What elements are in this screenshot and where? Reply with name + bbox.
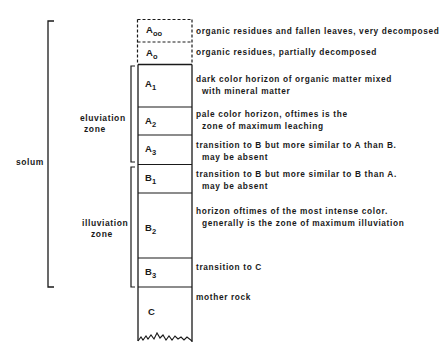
- soil-column-outline: [138, 65, 192, 343]
- bedrock-jagged-edge: [138, 333, 192, 341]
- horizon-Ao-label: Ao: [146, 47, 157, 61]
- horizon-B1-description: transition to B but more similar to B th…: [196, 168, 397, 192]
- horizon-A2-label: A2: [145, 115, 156, 129]
- horizon-A3-label: A3: [145, 143, 156, 157]
- horizon-C-description: mother rock: [196, 291, 251, 303]
- illuviation-label-line1: illuviation: [82, 218, 128, 229]
- eluviation-label-line1: eluviation: [80, 113, 126, 124]
- horizon-B2-label: B2: [145, 222, 156, 236]
- horizon-B3-description: transition to C: [196, 261, 262, 273]
- illuviation-bracket: [131, 167, 135, 287]
- horizon-Aoo-description: organic residues and fallen leaves, very…: [196, 25, 439, 37]
- horizon-A2-description: pale color horizon, oftimes is thezone o…: [196, 108, 348, 132]
- horizon-Ao-description: organic residues, partially decomposed: [196, 46, 377, 58]
- horizon-A3-description: transition to B but more similar to A th…: [196, 139, 397, 163]
- eluviation-bracket: [131, 66, 135, 162]
- eluviation-label-line2: zone: [84, 124, 106, 135]
- horizon-B1-label: B1: [145, 172, 156, 186]
- horizon-A1-description: dark color horizon of organic matter mix…: [196, 73, 392, 97]
- solum-label: solum: [16, 157, 44, 168]
- horizon-A1-label: A1: [145, 78, 156, 92]
- horizon-Aoo-label: Aoo: [146, 24, 162, 38]
- illuviation-label-line2: zone: [91, 229, 113, 240]
- horizon-B3-label: B3: [145, 266, 156, 280]
- horizon-C-label: C: [148, 306, 155, 317]
- solum-bracket: [48, 21, 54, 287]
- horizon-B2-description: horizon oftimes of the most intense colo…: [196, 205, 404, 229]
